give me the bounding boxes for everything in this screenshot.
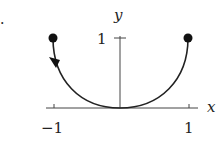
- x-axis-label: x: [207, 98, 216, 116]
- y-tick-label-1: 1: [97, 30, 107, 48]
- endpoint-left-dot: [49, 34, 58, 43]
- x-tick-label-minus-1: −1: [41, 119, 63, 137]
- parametric-curve-diagram: . y 1 x −1 1: [0, 0, 224, 160]
- y-axis-label: y: [113, 6, 123, 24]
- figure-marker: .: [0, 11, 4, 27]
- endpoint-right-dot: [184, 34, 193, 43]
- x-tick-label-1: 1: [184, 119, 194, 137]
